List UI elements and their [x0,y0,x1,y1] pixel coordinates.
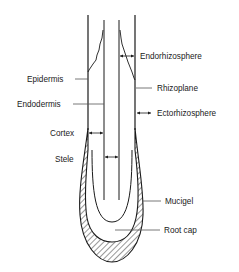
root-tip-inner [92,150,132,222]
root-diagram: Epidermis Endodermis Cortex Stele Endorh… [0,0,239,272]
label-endorhizosphere: Endorhizosphere [140,52,202,61]
root-hair-left [88,30,103,72]
label-endodermis: Endodermis [17,100,61,109]
label-ectorhizosphere: Ectorhizosphere [157,109,217,118]
label-epidermis: Epidermis [27,75,63,84]
label-rhizoplane: Rhizoplane [157,84,198,93]
label-stele: Stele [55,155,74,164]
label-mucigel: Mucigel [165,197,193,206]
mucigel-layer [80,128,144,262]
label-root-cap: Root cap [164,226,197,235]
label-cortex: Cortex [50,129,74,138]
